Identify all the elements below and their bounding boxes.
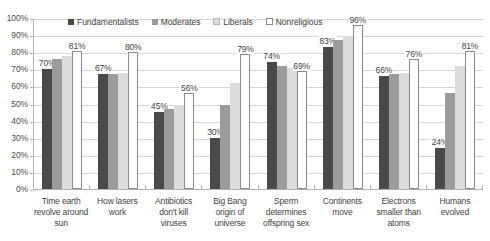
- x-axis-category-labels: Time earthrevolve aroundsunHow laserswor…: [33, 196, 483, 241]
- bar-liberals-2[interactable]: [118, 73, 128, 189]
- bar-group: 66%76%: [371, 19, 427, 189]
- x-axis-label-line: Continents: [323, 196, 362, 206]
- x-axis-label-line: move: [332, 207, 352, 217]
- bar-liberals-3[interactable]: [174, 105, 184, 189]
- bar-fundamentalists-2[interactable]: 67%: [98, 74, 108, 189]
- bar-moderates-2[interactable]: [108, 74, 118, 189]
- bar-fundamentalists-6[interactable]: 83%: [323, 47, 333, 189]
- legend-label-fundamentalists: Fundamentalists: [77, 17, 139, 27]
- x-axis-label-line: origin of: [215, 207, 244, 217]
- bar-value-label: 56%: [180, 83, 198, 93]
- bar-nonreligious-8[interactable]: 81%: [465, 51, 475, 190]
- bar-moderates-6[interactable]: [333, 40, 343, 189]
- x-axis-label-line: universe: [214, 218, 245, 228]
- y-axis: 100%90%80%70%60%50%40%30%20%10%0%: [0, 19, 33, 190]
- bar-value-label: 74%: [262, 51, 280, 61]
- x-axis-label-line: revolve around: [34, 207, 88, 217]
- x-axis-tick-mark: [482, 185, 483, 189]
- y-axis-tick-label: 0%: [16, 184, 28, 194]
- legend-item-fundamentalists[interactable]: Fundamentalists: [68, 17, 139, 27]
- plot-area: 70%81%67%80%45%56%30%79%74%69%83%96%66%7…: [33, 19, 483, 190]
- bar-fundamentalists-1[interactable]: 70%: [42, 69, 52, 189]
- y-axis-tick-mark: [30, 190, 33, 191]
- y-axis-tick-label: 30%: [11, 133, 28, 143]
- x-axis-label-line: work: [109, 207, 126, 217]
- x-axis-label-line: viruses: [161, 218, 187, 228]
- bar-fundamentalists-8[interactable]: 24%: [435, 148, 445, 189]
- bar-fundamentalists-3[interactable]: 45%: [154, 112, 164, 189]
- bar-liberals-1[interactable]: [62, 56, 72, 189]
- bar-group: 45%56%: [146, 19, 202, 189]
- y-axis-tick-label: 10%: [11, 167, 28, 177]
- bar-liberals-8[interactable]: [455, 66, 465, 189]
- bar-moderates-5[interactable]: [277, 66, 287, 189]
- x-axis-label-line: don't kill: [159, 207, 188, 217]
- bar-fundamentalists-4[interactable]: 30%: [210, 138, 220, 189]
- x-axis-label-line: Big Bang: [213, 196, 246, 206]
- bar-value-label: 76%: [405, 49, 423, 59]
- x-axis-label-5: Spermdeterminesoffspring sex: [258, 196, 314, 241]
- x-axis-label-line: Humans: [439, 196, 470, 206]
- bar-value-label: 67%: [94, 63, 112, 73]
- x-axis-label-7: Electronssmaller thanatoms: [371, 196, 427, 241]
- y-axis-tick-label: 80%: [11, 47, 28, 57]
- x-axis-label-8: Humansevolved: [427, 196, 483, 241]
- bar-group: 83%96%: [315, 19, 371, 189]
- bar-moderates-3[interactable]: [164, 109, 174, 189]
- y-axis-tick-label: 40%: [11, 116, 28, 126]
- legend-item-moderates[interactable]: Moderates: [152, 17, 201, 27]
- bar-liberals-4[interactable]: [230, 83, 240, 189]
- x-axis-label-line: Time earth: [42, 196, 81, 206]
- bar-liberals-5[interactable]: [287, 68, 297, 189]
- legend-swatch-moderates-icon: [152, 19, 158, 25]
- chart-legend: Fundamentalists Moderates Liberals Nonre…: [68, 15, 322, 28]
- x-axis-label-line: smaller than: [376, 207, 421, 217]
- bar-fundamentalists-5[interactable]: 74%: [267, 62, 277, 189]
- bar-group: 74%69%: [259, 19, 315, 189]
- legend-item-nonreligious[interactable]: Nonreligious: [266, 17, 323, 27]
- y-axis-tick-label: 50%: [11, 99, 28, 109]
- y-axis-tick-label: 70%: [11, 64, 28, 74]
- bar-nonreligious-7[interactable]: 76%: [409, 59, 419, 189]
- bar-moderates-7[interactable]: [389, 74, 399, 189]
- bar-value-label: 81%: [461, 41, 479, 51]
- y-axis-tick-label: 60%: [11, 81, 28, 91]
- x-axis-label-line: How lasers: [97, 196, 138, 206]
- bar-nonreligious-2[interactable]: 80%: [128, 52, 138, 189]
- x-axis-label-line: Sperm: [274, 196, 298, 206]
- bar-moderates-4[interactable]: [220, 105, 230, 189]
- x-axis-label-line: offspring sex: [263, 218, 309, 228]
- bar-liberals-6[interactable]: [343, 37, 353, 189]
- y-axis-tick-label: 90%: [11, 30, 28, 40]
- legend-label-moderates: Moderates: [161, 17, 201, 27]
- x-axis-label-line: determines: [266, 207, 307, 217]
- bar-liberals-7[interactable]: [399, 73, 409, 189]
- bar-value-label: 79%: [236, 44, 254, 54]
- bar-nonreligious-6[interactable]: 96%: [353, 25, 363, 189]
- bar-groups: 70%81%67%80%45%56%30%79%74%69%83%96%66%7…: [34, 19, 483, 189]
- x-axis-label-line: Antibiotics: [155, 196, 192, 206]
- bar-nonreligious-3[interactable]: 56%: [184, 93, 194, 189]
- bar-value-label: 69%: [292, 61, 310, 71]
- grouped-bar-chart: Fundamentalists Moderates Liberals Nonre…: [0, 0, 490, 241]
- bar-nonreligious-1[interactable]: 81%: [72, 51, 82, 190]
- legend-swatch-nonreligious-icon: [266, 18, 273, 25]
- y-axis-tick-label: 100%: [7, 13, 28, 23]
- legend-swatch-liberals-icon: [213, 18, 220, 25]
- legend-item-liberals[interactable]: Liberals: [213, 17, 252, 27]
- bar-value-label: 96%: [348, 15, 366, 25]
- x-axis-label-6: Continentsmove: [314, 196, 370, 241]
- legend-label-liberals: Liberals: [223, 17, 252, 27]
- bar-fundamentalists-7[interactable]: 66%: [379, 76, 389, 189]
- x-axis-label-line: sun: [54, 218, 67, 228]
- x-axis-label-4: Big Bangorigin ofuniverse: [202, 196, 258, 241]
- bar-moderates-1[interactable]: [52, 59, 62, 189]
- x-axis-label-line: evolved: [441, 207, 469, 217]
- bar-value-label: 81%: [68, 41, 86, 51]
- x-axis-label-line: atoms: [387, 218, 409, 228]
- bar-group: 70%81%: [34, 19, 90, 189]
- bar-nonreligious-5[interactable]: 69%: [297, 71, 307, 189]
- bar-nonreligious-4[interactable]: 79%: [240, 54, 250, 189]
- x-axis-label-1: Time earthrevolve aroundsun: [33, 196, 89, 241]
- bar-moderates-8[interactable]: [445, 93, 455, 189]
